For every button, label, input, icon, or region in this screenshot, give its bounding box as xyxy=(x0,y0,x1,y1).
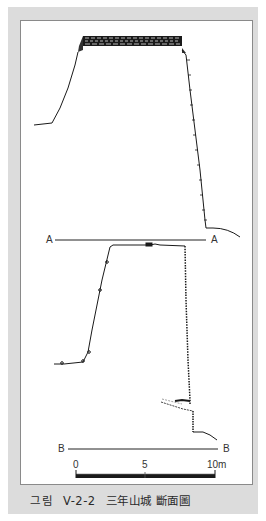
scale-tick-10m: 10m xyxy=(207,459,226,470)
scale-bar xyxy=(76,470,215,478)
section-b-right-label: B xyxy=(223,443,230,454)
section-a-left-label: A xyxy=(46,234,53,245)
caption-number: V-2-2 xyxy=(63,494,96,508)
scale-tick-0: 0 xyxy=(73,459,79,470)
caption-title: 三年山城 斷面圖 xyxy=(106,494,191,508)
section-a-right-label: A xyxy=(211,234,218,245)
profile-a xyxy=(34,36,240,237)
section-b-left-label: B xyxy=(58,443,65,454)
scale-tick-5: 5 xyxy=(142,459,148,470)
figure-caption: 그림V-2-2三年山城 斷面圖 xyxy=(30,492,200,508)
caption-label: 그림 xyxy=(30,494,53,508)
profile-b xyxy=(54,243,217,440)
